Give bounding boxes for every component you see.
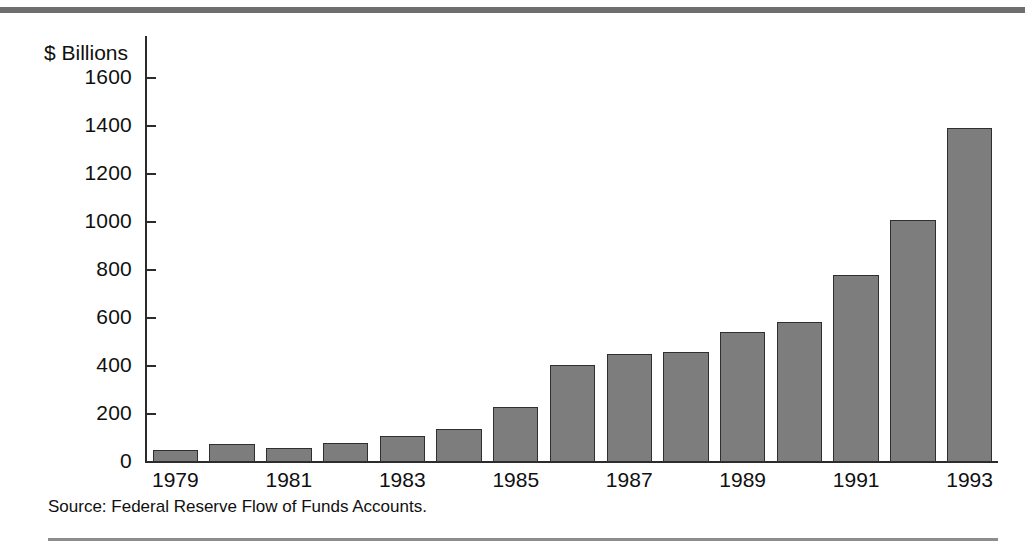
bar xyxy=(890,220,935,462)
y-axis-tick-label: 0 xyxy=(12,449,132,473)
bar xyxy=(947,128,992,462)
bar xyxy=(493,407,538,462)
y-axis-tick xyxy=(147,365,156,367)
x-axis-tick-label: 1991 xyxy=(833,468,880,492)
y-axis-tick-label: 1600 xyxy=(12,65,132,89)
bar xyxy=(153,450,198,462)
x-axis-tick-label: 1979 xyxy=(152,468,199,492)
y-axis-tick xyxy=(147,173,156,175)
y-axis-tick xyxy=(147,77,156,79)
x-axis-tick-label: 1983 xyxy=(379,468,426,492)
chart-figure: $ Billions 02004006008001000120014001600… xyxy=(0,0,1025,547)
bottom-rule-divider xyxy=(48,538,998,541)
y-axis-tick-label: 1000 xyxy=(12,209,132,233)
source-note: Source: Federal Reserve Flow of Funds Ac… xyxy=(48,497,427,517)
bar xyxy=(436,429,481,462)
y-axis-tick-label: 800 xyxy=(12,257,132,281)
bar xyxy=(663,352,708,462)
plot-area: $ Billions 02004006008001000120014001600… xyxy=(0,0,1025,547)
bar xyxy=(266,448,311,462)
y-axis-tick xyxy=(147,413,156,415)
x-axis-tick-label: 1993 xyxy=(946,468,993,492)
bar xyxy=(720,332,765,462)
bar xyxy=(607,354,652,462)
bar xyxy=(209,444,254,462)
y-axis-tick xyxy=(147,221,156,223)
bar xyxy=(833,275,878,462)
x-axis-tick-label: 1981 xyxy=(265,468,312,492)
bar xyxy=(777,322,822,462)
y-axis-tick-label: 600 xyxy=(12,305,132,329)
y-axis-tick xyxy=(147,317,156,319)
y-axis-tick-label: 1400 xyxy=(12,113,132,137)
y-axis-title: $ Billions xyxy=(44,41,128,65)
x-axis-tick-label: 1989 xyxy=(719,468,766,492)
y-axis-tick-label: 200 xyxy=(12,401,132,425)
y-axis-tick xyxy=(147,269,156,271)
bar xyxy=(323,443,368,462)
y-axis-tick-label: 1200 xyxy=(12,161,132,185)
x-axis-tick-label: 1985 xyxy=(492,468,539,492)
bar xyxy=(550,365,595,462)
y-axis-tick xyxy=(147,125,156,127)
y-axis-tick-label: 400 xyxy=(12,353,132,377)
bar xyxy=(380,436,425,462)
x-axis-tick-label: 1987 xyxy=(606,468,653,492)
y-axis-line xyxy=(145,36,147,463)
